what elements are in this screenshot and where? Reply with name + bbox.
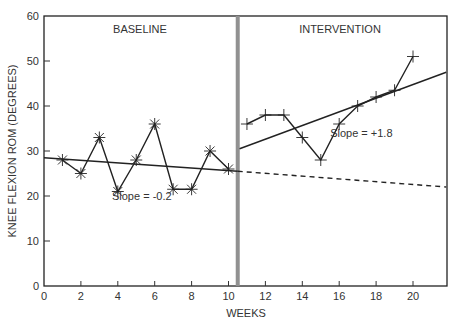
y-axis: 0102030405060 (27, 10, 50, 292)
y-tick-label: 60 (27, 10, 39, 22)
x-axis: 02468101214161820 (41, 281, 419, 302)
plus-marker (407, 51, 419, 63)
y-tick-label: 10 (27, 235, 39, 247)
x-tick-label: 18 (370, 290, 382, 302)
x-tick-label: 12 (259, 290, 271, 302)
x-tick-label: 10 (222, 290, 234, 302)
x-tick-label: 6 (152, 290, 158, 302)
x-tick-label: 4 (115, 290, 121, 302)
x-tick-label: 2 (78, 290, 84, 302)
y-tick-label: 30 (27, 145, 39, 157)
series-line (62, 124, 228, 192)
asterisk-marker (149, 118, 161, 130)
y-axis-label: KNEE FLEXION ROM (DEGREES) (6, 65, 18, 238)
asterisk-marker (130, 154, 142, 166)
x-tick-label: 16 (333, 290, 345, 302)
asterisk-marker (186, 183, 198, 195)
y-tick-label: 50 (27, 55, 39, 67)
line-chart: 0102030405060 02468101214161820 BASELINE… (0, 0, 457, 324)
asterisk-marker (56, 154, 68, 166)
x-axis-label: WEEKS (226, 307, 266, 319)
asterisk-marker (223, 163, 235, 175)
plus-marker (241, 118, 253, 130)
plus-marker (259, 109, 271, 121)
y-tick-label: 40 (27, 100, 39, 112)
asterisk-marker (93, 132, 105, 144)
plus-marker (370, 91, 382, 103)
x-tick-label: 20 (407, 290, 419, 302)
trend-line (238, 171, 446, 187)
phase-label-baseline: BASELINE (113, 23, 167, 35)
baseline-slope-annotation: Slope = -0.2 (112, 190, 172, 202)
phase-change-line (236, 16, 240, 286)
x-tick-label: 8 (189, 290, 195, 302)
series-line (247, 57, 413, 161)
y-tick-label: 0 (33, 280, 39, 292)
y-tick-label: 20 (27, 190, 39, 202)
asterisk-marker (75, 168, 87, 180)
x-tick-label: 0 (41, 290, 47, 302)
intervention-slope-annotation: Slope = +1.8 (330, 127, 392, 139)
phase-label-intervention: INTERVENTION (299, 23, 381, 35)
x-tick-label: 14 (296, 290, 308, 302)
asterisk-marker (204, 145, 216, 157)
plus-marker (389, 84, 401, 96)
